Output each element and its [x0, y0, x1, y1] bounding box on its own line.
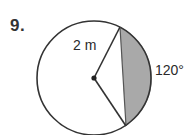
radius-label: 2 m	[73, 37, 96, 53]
center-point	[91, 75, 96, 80]
radius-line-bottom	[94, 78, 126, 126]
radius-line-top	[94, 27, 120, 78]
angle-label: 120°	[155, 62, 184, 78]
